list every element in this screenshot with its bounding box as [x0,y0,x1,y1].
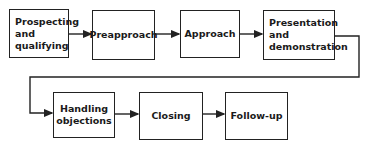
step-label: Prospecting and qualifying [15,16,79,52]
step-prospecting-qualifying: Prospecting and qualifying [9,9,69,58]
step-label: Presentation and demonstration [269,17,348,53]
step-label: Closing [151,110,190,122]
step-preapproach: Preapproach [92,10,155,60]
step-presentation-demonstration: Presentation and demonstration [263,10,335,60]
step-label: Preapproach [89,29,157,41]
step-label: Approach [185,28,236,40]
step-label: Handling objections [56,103,111,127]
step-approach: Approach [180,10,240,58]
step-handling-objections: Handling objections [53,92,115,138]
step-closing: Closing [139,92,203,140]
step-label: Follow-up [231,110,283,122]
step-follow-up: Follow-up [225,92,288,140]
